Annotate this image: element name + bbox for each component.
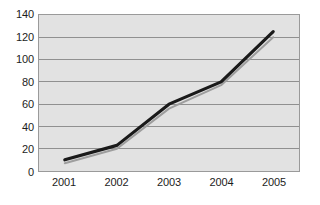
y-axis-tick-label: 40 xyxy=(0,121,34,132)
x-axis-tick-label: 2004 xyxy=(197,176,247,189)
y-axis-tick-labels: 020406080100120140 xyxy=(0,14,34,172)
data-line-series-1 xyxy=(65,32,273,160)
y-axis-tick-label: 20 xyxy=(0,144,34,155)
plot-area xyxy=(38,14,300,172)
x-axis-tick-label: 2002 xyxy=(92,176,142,189)
plot-svg xyxy=(39,15,299,171)
y-axis-tick-label: 100 xyxy=(0,54,34,65)
y-axis-tick-label: 140 xyxy=(0,9,34,20)
x-axis-tick-label: 2003 xyxy=(144,176,194,189)
x-axis-tick-label: 2001 xyxy=(39,176,89,189)
y-axis-tick-label: 0 xyxy=(0,167,34,178)
y-axis-tick-label: 60 xyxy=(0,99,34,110)
y-axis-tick-label: 80 xyxy=(0,76,34,87)
x-axis-tick-labels: 20012002200320042005 xyxy=(38,176,300,194)
y-axis-tick-label: 120 xyxy=(0,31,34,42)
data-line-series-1-shadow xyxy=(65,37,273,163)
x-axis-tick-label: 2005 xyxy=(249,176,299,189)
line-chart: 020406080100120140 20012002200320042005 xyxy=(0,0,320,205)
